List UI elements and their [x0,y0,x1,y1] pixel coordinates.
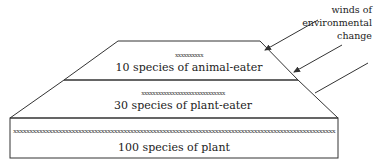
tier-top-marks: xxxxxxxxxx [175,51,204,58]
tier-middle-marks: xxxxxxxxxxxxxxxxxxxxxxxxxxxxxx [141,89,226,96]
tier-middle-label: 30 species of plant-eater [114,99,253,112]
annotation-line-1: winds of [331,4,373,15]
ecological-pyramid-diagram: xxxxxxxxxx 10 species of animal-eater xx… [0,0,381,167]
tier-bottom-label: 100 species of plant [118,141,230,154]
annotation-line-3: change [337,30,372,41]
arrow-icon [265,20,318,50]
arrow-icon [294,45,342,72]
tier-bottom-marks: xxxxxxxxxxxxxxxxxxxxxxxxxxxxxxxxxxxxxxxx… [13,127,336,134]
arrow-icon [315,63,368,93]
tier-top-label: 10 species of animal-eater [116,61,264,74]
